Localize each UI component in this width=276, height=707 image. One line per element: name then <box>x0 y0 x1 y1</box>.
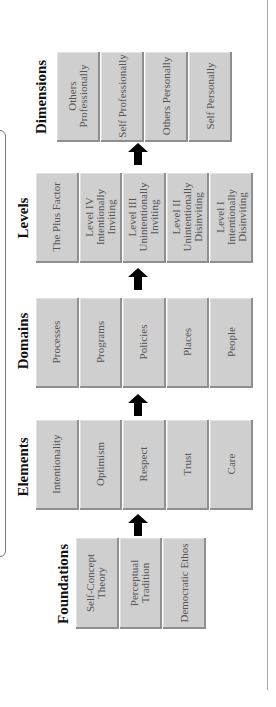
dimensions-group: Others Professionally Self Professionall… <box>57 52 233 142</box>
element-label: Respect <box>138 420 149 508</box>
domain-box: Places <box>167 298 210 388</box>
dimension-box: Self Personally <box>189 52 232 142</box>
elements-title: Elements <box>15 432 33 502</box>
foundation-box: Perceptual Tradition <box>120 538 163 629</box>
level-box: Level IV Intentionally Inviting <box>80 173 123 263</box>
dimension-box: Others Personally <box>145 52 188 142</box>
foundation-label: Democratic Ethos <box>178 539 189 627</box>
level-box: Level I Intentionally Disinviting <box>210 173 253 263</box>
domain-label: Processes <box>51 298 62 386</box>
level-box: The Plus Factor <box>36 173 79 263</box>
element-box: Intentionality <box>36 420 79 510</box>
dimension-label: Others Professionally <box>67 52 89 140</box>
level-label: Level I Intentionally Disinviting <box>214 173 247 261</box>
element-label: Care <box>225 420 236 508</box>
dimension-label: Others Personally <box>160 52 171 140</box>
dimensions-title: Dimensions <box>33 57 51 137</box>
level-label: The Plus Factor <box>51 173 62 261</box>
dimension-box: Self Professionally <box>101 52 144 142</box>
level-label: Level III Unintentionally Inviting <box>127 173 160 261</box>
dimension-label: Self Professionally <box>116 52 127 140</box>
domain-label: People <box>225 298 236 386</box>
domain-box: People <box>210 298 253 388</box>
level-box: Level II Unintentionally Disinviting <box>167 173 210 263</box>
domain-label: Policies <box>138 298 149 386</box>
arrow-up-icon <box>128 143 148 165</box>
domain-box: Policies <box>123 298 166 388</box>
frame-right-border <box>267 0 268 690</box>
foundations-title: Foundations <box>55 539 73 629</box>
domains-title: Domains <box>15 306 33 376</box>
level-label: Level IV Intentionally Inviting <box>83 173 116 261</box>
foundations-group: Self-Concept Theory Perceptual Tradition… <box>76 538 207 629</box>
element-box: Trust <box>167 420 210 510</box>
foundation-label: Self-Concept Theory <box>85 539 107 627</box>
dimension-box: Others Professionally <box>57 52 100 142</box>
domain-box: Processes <box>36 298 79 388</box>
element-box: Optimism <box>80 420 123 510</box>
arrow-up-icon <box>128 394 148 416</box>
domain-label: Programs <box>94 298 105 386</box>
elements-group: Intentionality Optimism Respect Trust Ca… <box>36 420 254 510</box>
domain-box: Programs <box>80 298 123 388</box>
element-box: Care <box>210 420 253 510</box>
dimension-label: Self Personally <box>204 52 215 140</box>
arrow-up-icon <box>128 268 148 290</box>
levels-title: Levels <box>15 188 33 248</box>
frame-left-bracket <box>0 130 6 557</box>
element-label: Optimism <box>94 420 105 508</box>
level-box: Level III Unintentionally Inviting <box>123 173 166 263</box>
foundation-label: Perceptual Tradition <box>129 539 151 627</box>
element-box: Respect <box>123 420 166 510</box>
element-label: Trust <box>182 420 193 508</box>
element-label: Intentionality <box>51 420 62 508</box>
arrow-up-icon <box>128 514 148 536</box>
foundation-box: Democratic Ethos <box>163 538 206 629</box>
domains-group: Processes Programs Policies Places Peopl… <box>36 298 254 388</box>
domain-label: Places <box>182 298 193 386</box>
foundation-box: Self-Concept Theory <box>76 538 119 629</box>
levels-group: The Plus Factor Level IV Intentionally I… <box>36 173 254 263</box>
level-label: Level II Unintentionally Disinviting <box>171 173 204 261</box>
